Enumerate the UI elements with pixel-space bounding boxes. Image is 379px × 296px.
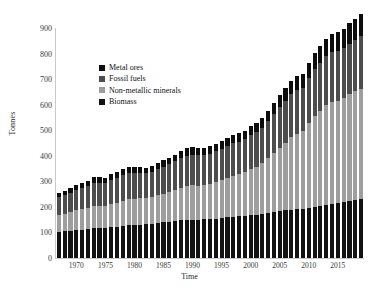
bar-segment [301,209,305,258]
bar-segment [202,148,206,155]
bar-segment [254,167,258,215]
bar-segment [353,91,357,199]
bar-segment [301,74,305,88]
bar [283,88,287,258]
bar-segment [214,144,218,151]
bar-segment [144,224,148,258]
bar-segment [283,101,287,143]
bar-segment [97,183,101,206]
bar-segment [190,155,194,186]
bar [324,39,328,258]
bar [144,168,148,258]
bar-segment [231,135,235,143]
bar-segment [97,228,101,258]
bar-segment [249,215,253,258]
bar-segment [266,121,270,158]
bar [196,148,200,258]
bar [231,135,235,258]
bar-segment [179,158,183,188]
bar-segment [260,118,264,128]
bar-segment [359,14,363,36]
bar-segment [57,197,61,215]
bar-segment [272,103,276,114]
legend-label: Non-metallic minerals [109,85,181,96]
bar-segment [63,214,67,232]
bar-segment [202,185,206,219]
bar [92,177,96,258]
bar-segment [330,34,334,52]
bar-segment [179,220,183,258]
bar [249,126,253,258]
bar-segment [220,149,224,180]
bar [109,174,113,258]
bar-segment [289,81,293,95]
x-tick-label: 2015 [318,261,358,270]
legend-label: Fossil fuels [109,73,146,84]
bar-segment [214,219,218,258]
bar-segment [109,180,113,204]
bar-segment [156,169,160,195]
bar-segment [243,139,247,172]
bar-segment [324,105,328,205]
bar [190,147,194,258]
bar-segment [196,186,200,220]
bar-segment [138,198,142,224]
bar-segment [347,201,351,258]
bar-segment [359,89,363,199]
bar-segment [254,123,258,132]
bar-segment [283,210,287,258]
bar [202,148,206,258]
bar-segment [336,32,340,51]
bar-segment [353,19,357,40]
bar-segment [225,146,229,178]
bar-segment [231,143,235,176]
bar-segment [342,48,346,98]
bar-segment [63,195,67,214]
bar-segment [190,147,194,154]
bar-segment [156,223,160,258]
bar-segment [121,226,125,258]
bar-segment [97,206,101,228]
legend-label: Biomass [109,96,137,107]
bar [173,155,177,258]
y-tick-label: 0 [18,254,52,263]
bar-segment [161,167,165,194]
bar-segment [347,94,351,201]
bar-segment [80,188,84,209]
bar-segment [68,193,72,213]
bar-segment [86,208,90,229]
bar-segment [150,224,154,258]
bar [254,123,258,258]
bar-segment [313,116,317,207]
bar-segment [167,164,171,192]
y-tick-label: 200 [18,202,52,211]
bar [307,63,311,258]
y-tick-label: 400 [18,151,52,160]
bar-segment [190,220,194,258]
bar-segment [249,169,253,215]
bar-segment [295,134,299,209]
bar [347,23,351,258]
bar [220,141,224,258]
bar-segment [249,135,253,169]
bar-segment [307,78,311,123]
bar [179,151,183,258]
bar-segment [313,207,317,258]
bar [295,76,299,258]
bar-segment [272,114,276,153]
x-axis-line [55,258,364,259]
bar-segment [109,227,113,258]
bar-segment [353,200,357,258]
bar-segment [185,156,189,186]
bar-segment [132,225,136,258]
bar [330,34,334,258]
bar-segment [150,197,154,224]
bar [237,133,241,258]
bar-segment [324,56,328,105]
bar-segment [330,52,334,102]
y-tick-label: 300 [18,177,52,186]
bar [74,185,78,258]
chart-legend: Metal oresFossil fuelsNon-metallic miner… [99,62,181,108]
bar-segment [208,219,212,258]
y-tick-label: 900 [18,24,52,33]
